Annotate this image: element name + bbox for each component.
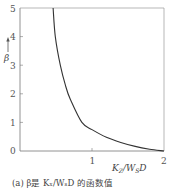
y-tick-2: 2 (10, 89, 16, 99)
y-tick-5: 5 (10, 4, 16, 14)
beta-curve (53, 8, 164, 151)
y-tick-0: 0 (10, 146, 16, 156)
y-tick-4: 4 (10, 32, 16, 42)
figure-caption: (a) β是 Kₓ/WₛD 的函数值 (12, 176, 174, 188)
x-tick-2: 2 (161, 156, 167, 166)
svg-text:β: β (3, 53, 9, 63)
y-tick-1: 1 (10, 118, 16, 128)
chart: 0 1 2 3 4 5 β 1 2 KZ/WSD (0, 0, 174, 192)
y-axis-label: β (3, 37, 10, 63)
y-ticks (20, 37, 23, 123)
y-tick-3: 3 (10, 61, 16, 71)
x-axis-label: KZ/WSD (111, 163, 147, 174)
x-tick-1: 1 (90, 156, 96, 166)
